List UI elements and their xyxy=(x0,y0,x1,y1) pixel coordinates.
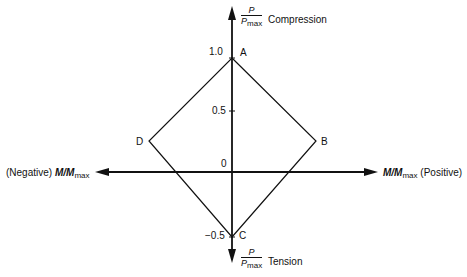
fraction-numerator: P xyxy=(241,6,262,16)
tick-label-0: 0 xyxy=(221,158,227,169)
compression-label: Compression xyxy=(268,14,327,25)
tick-label-0-5: 0.5 xyxy=(212,105,226,116)
moment-sub: max xyxy=(74,171,89,180)
tick-label-neg-0-5: −0.5 xyxy=(205,230,225,241)
arrow-left-icon xyxy=(95,168,109,176)
negative-moment-label: (Negative) M/Mmax xyxy=(6,167,90,181)
arrow-down-icon xyxy=(228,249,236,263)
moment-sub: max xyxy=(402,171,417,180)
denominator-sub: max xyxy=(247,261,262,270)
fraction-denominator: Pmax xyxy=(241,16,262,28)
fraction-numerator: P xyxy=(241,248,262,258)
tick-label-1-0: 1.0 xyxy=(209,46,223,57)
compression-fraction: P Pmax xyxy=(241,6,262,28)
point-label-c: C xyxy=(239,230,246,241)
moment-var: M/M xyxy=(383,167,402,178)
tension-fraction: P Pmax xyxy=(241,248,262,270)
interaction-diagram-canvas xyxy=(0,0,467,277)
positive-suffix: (Positive) xyxy=(420,167,462,178)
moment-var: M/M xyxy=(55,167,74,178)
arrow-right-icon xyxy=(364,168,378,176)
arrow-up-icon xyxy=(228,6,236,20)
positive-moment-label: M/Mmax (Positive) xyxy=(383,167,462,181)
point-label-b: B xyxy=(321,136,328,147)
tension-label: Tension xyxy=(268,256,302,267)
point-label-a: A xyxy=(240,47,247,58)
point-label-d: D xyxy=(136,136,143,147)
fraction-denominator: Pmax xyxy=(241,258,262,270)
denominator-sub: max xyxy=(247,19,262,28)
negative-prefix: (Negative) xyxy=(6,167,52,178)
